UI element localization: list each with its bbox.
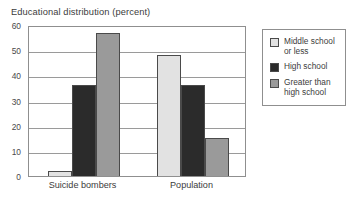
legend-label: High school xyxy=(284,62,327,72)
legend-entry[interactable]: Greater than high school xyxy=(270,78,339,97)
y-tick-label: 10 xyxy=(12,147,21,157)
bar-group xyxy=(48,27,120,176)
plot-area xyxy=(28,26,246,177)
y-tick-label: 50 xyxy=(12,46,21,56)
y-tick-label: 0 xyxy=(16,172,21,182)
bar-group xyxy=(157,27,229,176)
bars-layer xyxy=(29,27,245,176)
chart-figure: Educational distribution (percent) 01020… xyxy=(0,0,353,207)
bar[interactable] xyxy=(205,138,229,176)
x-axis: Suicide bombersPopulation xyxy=(28,179,246,201)
legend-swatch-icon xyxy=(270,63,279,72)
bar[interactable] xyxy=(48,171,72,176)
bar[interactable] xyxy=(181,85,205,176)
legend-entry[interactable]: Middle school or less xyxy=(270,37,339,56)
y-tick-label: 40 xyxy=(12,71,21,81)
legend-label: Greater than high school xyxy=(284,78,339,97)
chart-title: Educational distribution (percent) xyxy=(11,7,150,17)
legend-entry[interactable]: High school xyxy=(270,62,339,72)
y-tick-label: 60 xyxy=(12,21,21,31)
y-axis: 0102030405060 xyxy=(0,26,25,177)
x-category-label: Suicide bombers xyxy=(49,180,117,190)
y-tick-label: 20 xyxy=(12,122,21,132)
legend-swatch-icon xyxy=(270,38,279,47)
legend-swatch-icon xyxy=(270,79,279,88)
chart-legend: Middle school or lessHigh schoolGreater … xyxy=(262,29,346,106)
y-tick-label: 30 xyxy=(12,97,21,107)
legend-label: Middle school or less xyxy=(284,37,339,56)
bar[interactable] xyxy=(72,85,96,176)
bar[interactable] xyxy=(157,55,181,176)
bar[interactable] xyxy=(96,33,120,176)
x-category-label: Population xyxy=(170,180,213,190)
